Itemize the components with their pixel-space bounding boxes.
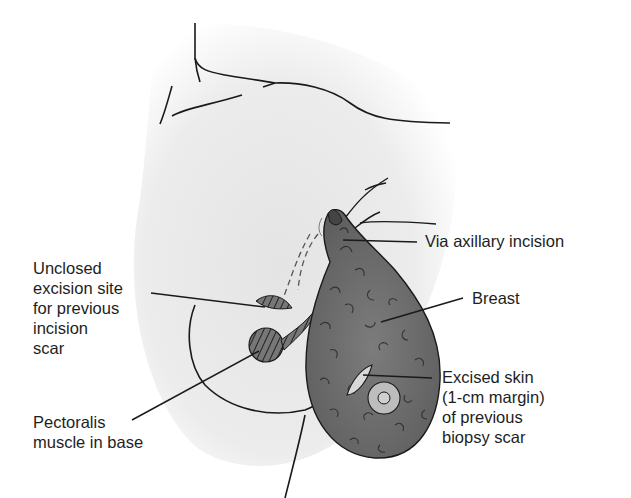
label-pectoralis-muscle: Pectoralis muscle in base	[33, 412, 143, 452]
diagram-canvas: Unclosed excision site for previous inci…	[0, 0, 631, 498]
label-excised-skin: Excised skin (1-cm margin) of previous b…	[442, 367, 545, 447]
label-via-axillary-incision: Via axillary incision	[425, 231, 564, 251]
label-breast: Breast	[472, 288, 520, 308]
nipple	[378, 392, 390, 404]
label-unclosed-excision-site: Unclosed excision site for previous inci…	[33, 258, 123, 358]
pectoralis-muscle-base	[249, 328, 283, 362]
